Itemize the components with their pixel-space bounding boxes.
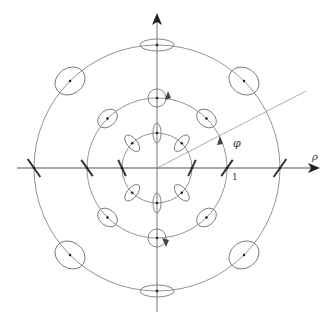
diagram-canvas: φ ρ 1 <box>0 0 331 327</box>
point-dot <box>131 191 134 194</box>
point-dot <box>279 167 282 170</box>
point-dot <box>106 117 109 120</box>
axes <box>17 13 320 312</box>
point-dot <box>156 97 159 100</box>
point-dot <box>69 254 72 257</box>
rho-label: ρ <box>311 151 318 162</box>
point-dot <box>156 237 159 240</box>
point-dot <box>86 167 89 170</box>
point-dot <box>121 167 124 170</box>
phi-label: φ <box>233 137 241 150</box>
point-dot <box>180 191 183 194</box>
point-dot <box>180 142 183 145</box>
arrow-phi-icon <box>217 136 223 145</box>
angle-ray <box>157 91 306 168</box>
point-dot <box>156 132 159 135</box>
point-dot <box>33 167 36 170</box>
point-dot <box>243 80 246 83</box>
point-dot <box>131 142 134 145</box>
tick-label-one: 1 <box>232 172 238 182</box>
point-dot <box>69 80 72 83</box>
point-dot <box>205 117 208 120</box>
point-dot <box>106 216 109 219</box>
point-dot <box>156 290 159 293</box>
point-dot <box>226 167 229 170</box>
point-dot <box>243 254 246 257</box>
point-dot <box>191 167 194 170</box>
point-dot <box>156 202 159 205</box>
point-dot <box>205 216 208 219</box>
arrow-bottom-icon <box>162 238 169 247</box>
point-dot <box>156 44 159 47</box>
polar-diagram: φ ρ 1 <box>0 0 331 327</box>
